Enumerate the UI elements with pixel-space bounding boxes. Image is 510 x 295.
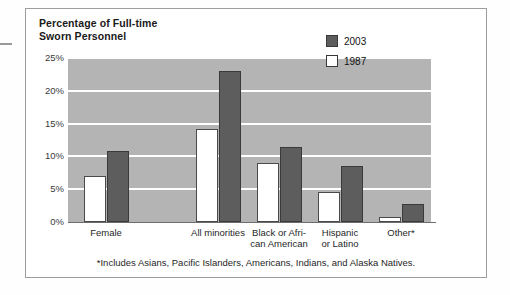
bars-layer xyxy=(68,58,431,222)
chart-page: Percentage of Full-time Sworn Personnel … xyxy=(0,0,510,295)
legend-swatch-1987 xyxy=(326,55,338,67)
y-tick-label-0%: 0% xyxy=(30,217,64,227)
x-label-female: Female xyxy=(63,227,149,238)
chart-card: Percentage of Full-time Sworn Personnel … xyxy=(25,8,487,278)
y-tick-label-20%: 20% xyxy=(30,86,64,96)
y-tick-label-10%: 10% xyxy=(30,151,64,161)
legend-item-2003: 2003 xyxy=(326,33,366,49)
bar-2003-other xyxy=(402,204,424,222)
page-title: Percentage of Full-time Sworn Personnel xyxy=(39,17,157,42)
bar-2003-hispanic-or-latino xyxy=(341,166,363,222)
y-tick-label-15%: 15% xyxy=(30,119,64,129)
bar-2003-black-or-african-american xyxy=(280,147,302,222)
legend: 2003 1987 xyxy=(326,33,366,73)
legend-item-1987: 1987 xyxy=(326,53,366,69)
y-tick-label-25%: 25% xyxy=(30,53,64,63)
bar-2003-all-minorities xyxy=(219,71,241,222)
bar-1987-all-minorities xyxy=(196,129,218,222)
bar-2003-female xyxy=(107,151,129,222)
legend-label-1987: 1987 xyxy=(344,56,366,67)
footnote: *Includes Asians, Pacific Islanders, Ame… xyxy=(26,257,486,268)
page-edge-tick xyxy=(0,43,12,45)
legend-swatch-2003 xyxy=(326,35,338,47)
y-tick-label-5%: 5% xyxy=(30,184,64,194)
legend-label-2003: 2003 xyxy=(344,36,366,47)
bar-1987-hispanic-or-latino xyxy=(318,192,340,222)
axis-baseline xyxy=(68,222,436,223)
x-label-other: Other* xyxy=(358,227,444,238)
bar-1987-black-or-african-american xyxy=(257,163,279,222)
bar-1987-female xyxy=(84,176,106,222)
bar-1987-other xyxy=(379,217,401,222)
